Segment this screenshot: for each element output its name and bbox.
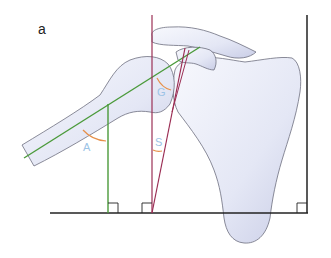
right-angle-marker-s — [142, 203, 152, 213]
angle-label-g: G — [157, 86, 166, 98]
panel-label: a — [38, 21, 46, 37]
right-angle-marker-right — [297, 203, 307, 213]
right-angle-marker-a — [108, 203, 118, 213]
angle-label-a: A — [83, 141, 90, 153]
diagram-canvas — [0, 0, 331, 258]
angle-arc-s — [153, 150, 162, 151]
shoulder-angle-diagram: a A G S — [0, 0, 331, 258]
scapula — [173, 57, 301, 243]
angle-label-s: S — [155, 136, 162, 148]
